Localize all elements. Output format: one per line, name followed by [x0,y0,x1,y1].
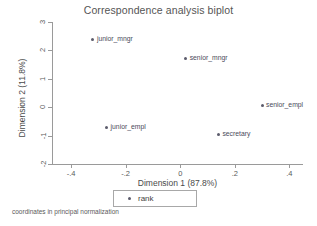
x-tick-mark [235,164,236,168]
point-marker-icon [184,57,187,60]
x-tick-mark [71,164,72,168]
chart-figure: Correspondence analysis biplot -.4-.20.2… [0,0,317,226]
x-tick-label: -.2 [121,169,130,178]
point-label: senior_empl [266,101,303,108]
point-marker-icon [91,38,94,41]
y-tick-label: -1 [39,132,48,139]
point-label: secretary [222,130,250,137]
point-marker-icon [217,133,220,136]
y-tick-label: 3 [38,20,47,24]
y-tick-label: 2 [38,48,47,52]
x-tick-mark [180,164,181,168]
legend-marker-icon [128,197,131,200]
x-tick-label: .4 [286,169,292,178]
y-tick-label: -2 [39,161,48,168]
plot-area: junior_mngrsenior_mngrsenior_empljunior_… [52,22,303,164]
x-tick-label: -.4 [67,169,76,178]
y-axis-label: Dimension 2 (11.8%) [17,38,27,158]
y-tick-mark [48,164,52,165]
x-axis-line [52,164,303,165]
x-axis-label: Dimension 1 (87.8%) [52,178,303,188]
y-tick-label: 1 [38,77,47,81]
point-label: junior_mngr [97,35,133,42]
point-marker-icon [261,104,264,107]
chart-title: Correspondence analysis biplot [0,4,317,16]
point-label: senior_mngr [190,54,228,61]
chart-legend[interactable]: rank [113,190,197,207]
x-tick-mark [126,164,127,168]
x-tick-label: 0 [178,169,182,178]
point-label: junior_empl [111,123,146,130]
x-tick-label: .2 [232,169,238,178]
x-tick-mark [289,164,290,168]
chart-footnote: coordinates in principal normalization [12,208,119,215]
point-marker-icon [105,126,108,129]
legend-label: rank [138,194,154,203]
y-tick-label: 0 [38,105,47,109]
